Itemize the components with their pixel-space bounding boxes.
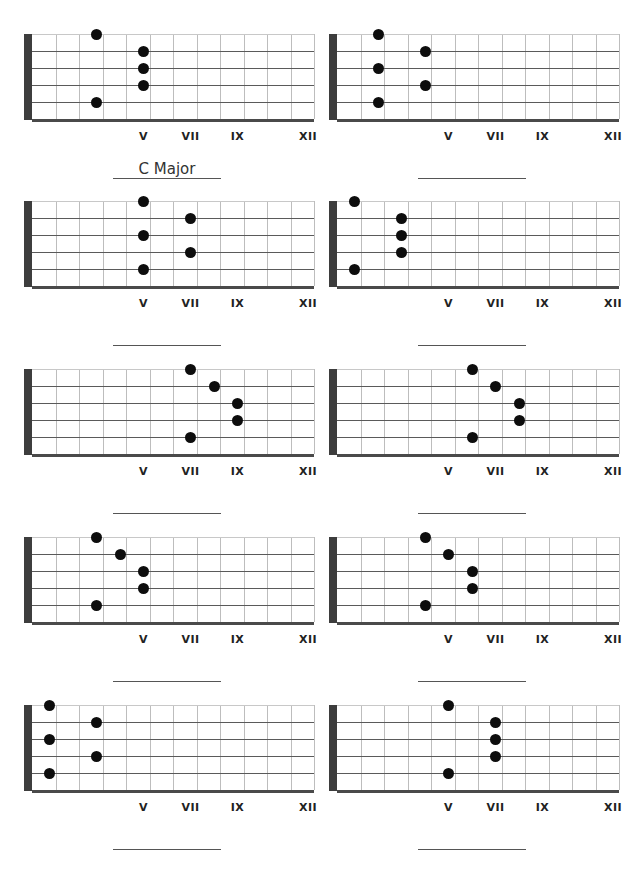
nut	[329, 369, 337, 455]
chord-name-blank[interactable]	[418, 345, 526, 346]
fret-marker-label: XII	[604, 801, 622, 814]
string-line	[32, 386, 314, 387]
nut	[329, 34, 337, 120]
nut	[24, 369, 32, 455]
finger-dot	[396, 230, 407, 241]
chord-name-blank[interactable]	[113, 513, 221, 514]
fret-marker-label: V	[139, 297, 148, 310]
fret-line	[384, 537, 385, 622]
string-line	[32, 739, 314, 740]
string-line	[337, 119, 619, 122]
fret-line	[267, 201, 268, 286]
fret-line	[455, 369, 456, 454]
fret-line	[596, 537, 597, 622]
finger-dot	[44, 734, 55, 745]
finger-dot	[467, 583, 478, 594]
finger-dot	[490, 751, 501, 762]
string-line	[337, 537, 619, 538]
finger-dot	[138, 46, 149, 57]
fret-line	[502, 201, 503, 286]
fret-marker-label: VII	[486, 297, 504, 310]
chord-name-blank[interactable]	[113, 681, 221, 682]
fret-marker-label: V	[444, 801, 453, 814]
fret-marker-label: XII	[604, 297, 622, 310]
fret-line	[220, 34, 221, 119]
chord-name-blank[interactable]	[418, 681, 526, 682]
finger-dot	[44, 700, 55, 711]
string-line	[337, 286, 619, 289]
string-line	[32, 454, 314, 457]
fret-line	[314, 537, 315, 622]
chord-name-blank[interactable]	[418, 178, 526, 179]
finger-dot	[490, 734, 501, 745]
fret-line	[549, 201, 550, 286]
nut	[329, 705, 337, 791]
fret-line	[220, 369, 221, 454]
fret-marker-label: VII	[181, 297, 199, 310]
string-line	[337, 369, 619, 370]
finger-dot	[373, 97, 384, 108]
fret-line	[525, 705, 526, 790]
fret-line	[525, 369, 526, 454]
string-line	[32, 34, 314, 35]
string-line	[32, 437, 314, 438]
fret-marker-label: V	[444, 465, 453, 478]
finger-dot	[443, 700, 454, 711]
finger-dot	[138, 264, 149, 275]
fret-line	[173, 705, 174, 790]
fret-marker-label: VII	[486, 801, 504, 814]
fret-line	[478, 537, 479, 622]
fret-marker-label: IX	[231, 465, 245, 478]
string-line	[337, 622, 619, 625]
fret-line	[244, 34, 245, 119]
fret-marker-label: VII	[486, 633, 504, 646]
fret-line	[478, 369, 479, 454]
nut	[24, 537, 32, 623]
string-line	[337, 85, 619, 86]
fret-line	[150, 705, 151, 790]
finger-dot	[91, 600, 102, 611]
chord-name-blank[interactable]	[113, 178, 221, 179]
fret-marker-label: XII	[299, 465, 317, 478]
string-line	[32, 537, 314, 538]
fret-marker-label: XII	[604, 633, 622, 646]
fret-line	[525, 34, 526, 119]
fret-line	[478, 34, 479, 119]
chord-name-blank[interactable]	[113, 849, 221, 850]
fret-line	[150, 201, 151, 286]
fret-marker-label: V	[139, 130, 148, 143]
fret-line	[126, 34, 127, 119]
fret-marker-label: XII	[604, 130, 622, 143]
fret-line	[572, 537, 573, 622]
finger-dot	[373, 63, 384, 74]
fretboard-diagram: VVIIIXXII	[329, 705, 629, 873]
chord-name-blank[interactable]	[418, 513, 526, 514]
fret-line	[197, 537, 198, 622]
finger-dot	[91, 29, 102, 40]
chord-name-blank[interactable]	[418, 849, 526, 850]
fret-line	[314, 201, 315, 286]
fretboard-diagram: VVIIIXXII	[329, 537, 629, 705]
fret-line	[79, 537, 80, 622]
string-line	[32, 790, 314, 793]
fret-line	[596, 201, 597, 286]
string-line	[337, 437, 619, 438]
string-line	[32, 420, 314, 421]
string-line	[32, 51, 314, 52]
string-line	[337, 705, 619, 706]
chord-name-blank[interactable]	[113, 345, 221, 346]
fret-line	[220, 201, 221, 286]
fret-line	[56, 201, 57, 286]
fret-line	[572, 705, 573, 790]
string-line	[32, 252, 314, 253]
fret-line	[56, 537, 57, 622]
fret-line	[244, 201, 245, 286]
fret-line	[79, 34, 80, 119]
fret-marker-label: IX	[231, 297, 245, 310]
fret-marker-label: IX	[536, 465, 550, 478]
finger-dot	[91, 532, 102, 543]
finger-dot	[138, 583, 149, 594]
finger-dot	[138, 196, 149, 207]
fret-line	[619, 369, 620, 454]
finger-dot	[138, 230, 149, 241]
